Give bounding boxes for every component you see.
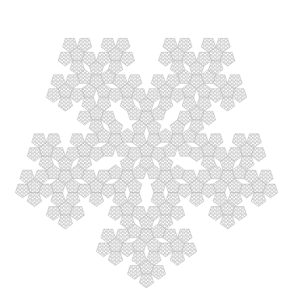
pentagon-cell	[127, 265, 142, 279]
pentagon-cell	[189, 193, 204, 207]
pentagon-cell	[232, 207, 247, 221]
pentagon-cell	[27, 193, 42, 207]
pentagon-cell	[189, 148, 204, 162]
pentagon-cell	[201, 184, 216, 198]
pentagon-cell	[120, 243, 135, 257]
pentagon-cell	[77, 111, 92, 125]
pentagon-cell	[120, 52, 135, 66]
pentagon-cell	[120, 128, 135, 142]
pentagon-cell	[139, 274, 154, 288]
pentagon-cell	[15, 184, 30, 198]
pentaflake-shape	[15, 38, 278, 288]
pentagon-cell	[101, 184, 116, 198]
pentagon-cell	[158, 243, 173, 257]
pentagon-cell	[170, 207, 185, 221]
pentagon-cell	[158, 52, 173, 66]
pentagon-cell	[96, 243, 111, 257]
pentagon-cell	[108, 252, 123, 266]
pentagon-cell	[39, 184, 54, 198]
pentagon-cell	[220, 52, 235, 66]
pentagon-cell	[177, 184, 192, 198]
pentagon-cell	[239, 184, 254, 198]
pentagon-cell	[220, 215, 235, 229]
pentagon-cell	[263, 184, 278, 198]
pentagon-cell	[170, 89, 185, 103]
pentagon-cell	[108, 207, 123, 221]
pentagon-cell	[251, 148, 266, 162]
pentagon-cell	[182, 243, 197, 257]
pentagon-cell	[208, 89, 223, 103]
pentagon-cell	[77, 184, 92, 198]
fractal-figure: Fractal pentagon tiling (pentaflake snow…	[0, 0, 293, 288]
pentagon-cell	[58, 97, 73, 111]
pentaflake-canvas	[0, 0, 293, 288]
pentagon-cell	[170, 252, 185, 266]
pentagon-cell	[27, 148, 42, 162]
pentagon-cell	[46, 207, 61, 221]
pentagon-cell	[251, 193, 266, 207]
pentagon-cell	[58, 52, 73, 66]
pentagon-cell	[89, 193, 104, 207]
pentagon-cell	[220, 97, 235, 111]
pentagon-cell	[70, 89, 85, 103]
pentagon-cell	[46, 89, 61, 103]
pentagon-cell	[89, 148, 104, 162]
pentagon-cell	[108, 89, 123, 103]
pentagon-cell	[58, 215, 73, 229]
pentagon-cell	[158, 128, 173, 142]
pentagon-cell	[201, 111, 216, 125]
pentagon-cell	[70, 207, 85, 221]
pentagon-cell	[208, 207, 223, 221]
pentagon-cell	[232, 89, 247, 103]
pentagon-cell	[151, 265, 166, 279]
